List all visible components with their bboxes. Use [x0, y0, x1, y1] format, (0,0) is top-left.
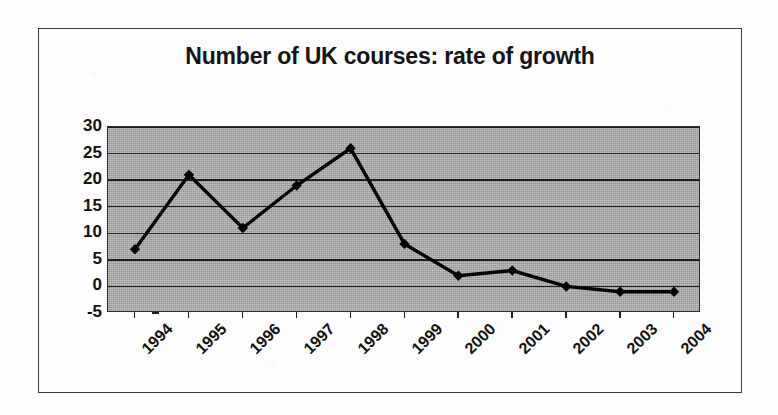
x-tick-mark — [404, 312, 405, 318]
x-tick-label: 2003 — [624, 320, 662, 358]
scanned-chart-page: Number of UK courses: rate of growth -50… — [0, 0, 778, 415]
chart-title: Number of UK courses: rate of growth — [38, 43, 742, 70]
y-tick-label: 10 — [52, 222, 102, 242]
x-tick-label: 2000 — [462, 320, 500, 358]
series-line — [135, 148, 674, 291]
line-series — [108, 127, 700, 312]
data-point-marker — [615, 287, 625, 297]
x-tick-mark — [457, 312, 458, 318]
x-tick-mark — [296, 312, 297, 318]
y-tick-label: 15 — [52, 196, 102, 216]
x-tick-label: 1995 — [192, 320, 230, 358]
data-point-marker — [669, 287, 679, 297]
x-tick-mark — [565, 312, 566, 318]
x-tick-label: 1998 — [354, 320, 392, 358]
x-tick-mark — [188, 312, 189, 318]
x-tick-label: 2001 — [516, 320, 554, 358]
y-axis: -5051015202530 — [52, 114, 102, 314]
x-tick-mark — [619, 312, 620, 318]
x-tick-mark — [242, 312, 243, 318]
x-tick-mark — [134, 312, 135, 318]
y-tick-label: 5 — [52, 249, 102, 269]
x-tick-label: 1999 — [408, 320, 446, 358]
y-tick-label: 0 — [52, 275, 102, 295]
x-tick-mark — [350, 312, 351, 318]
x-tick-label: 1996 — [246, 320, 284, 358]
x-tick-label: 1997 — [300, 320, 338, 358]
y-tick-label: -5 — [52, 302, 102, 322]
data-point-marker — [507, 265, 517, 275]
y-tick-label: 30 — [52, 116, 102, 136]
x-tick-mark — [511, 312, 512, 318]
x-axis: 1994199519961997199819992000200120022003… — [107, 312, 700, 392]
data-point-marker — [561, 281, 571, 291]
y-tick-label: 25 — [52, 143, 102, 163]
plot-area — [107, 126, 700, 312]
x-tick-label: 2002 — [570, 320, 608, 358]
y-tick-label: 20 — [52, 169, 102, 189]
x-tick-mark — [673, 312, 674, 318]
x-tick-label: 1994 — [138, 320, 176, 358]
